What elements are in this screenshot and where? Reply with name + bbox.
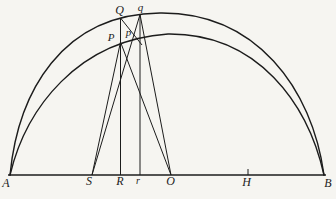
scanned-figure-page: ASRrOHBQqPp (0, 0, 336, 199)
line-SP (92, 42, 121, 175)
label-B: B (324, 176, 332, 190)
line-Oq (140, 15, 171, 176)
label-r: r (136, 175, 140, 186)
line-Sq (92, 15, 140, 176)
figure-segments (8, 15, 326, 176)
line-OP (121, 42, 172, 175)
label-O: O (166, 174, 175, 188)
label-Q: Q (115, 3, 124, 17)
figure-labels: ASRrOHBQqPp (1, 1, 332, 190)
label-P: P (107, 31, 115, 43)
figure-svg: ASRrOHBQqPp (0, 0, 336, 199)
label-R: R (115, 174, 124, 188)
label-p: p (125, 26, 132, 38)
label-q: q (138, 1, 144, 13)
label-H: H (241, 175, 252, 189)
figure-curves (10, 13, 324, 175)
label-S: S (86, 174, 92, 188)
label-A: A (1, 176, 10, 190)
outer-arc (10, 13, 324, 175)
